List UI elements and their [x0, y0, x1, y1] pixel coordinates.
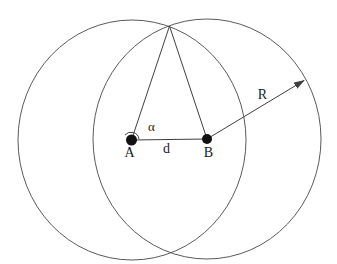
- diagram-canvas: A d B α R: [0, 0, 337, 264]
- two-circle-intersection-figure: A d B α R: [0, 0, 337, 264]
- label-distance-d: d: [163, 141, 170, 156]
- label-angle-alpha: α: [148, 119, 155, 134]
- point-a-dot: [126, 135, 137, 146]
- label-point-a: A: [124, 145, 135, 160]
- point-b-dot: [202, 134, 212, 144]
- label-radius-r: R: [258, 87, 268, 102]
- label-point-b: B: [204, 145, 213, 160]
